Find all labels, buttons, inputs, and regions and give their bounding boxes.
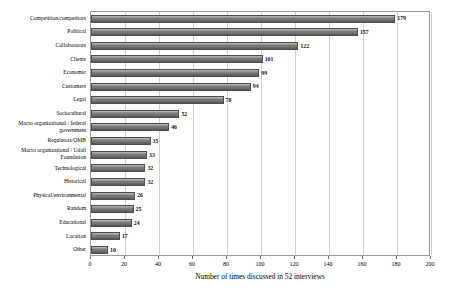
bar[interactable]: [91, 123, 169, 131]
x-tick-label: 0: [78, 260, 102, 268]
bar[interactable]: [91, 151, 147, 159]
bar-row: 26: [91, 189, 429, 203]
bar-row: 33: [91, 148, 429, 162]
x-tick-mark: [362, 256, 363, 259]
x-tick-label: 160: [350, 260, 374, 268]
bar[interactable]: [91, 69, 259, 77]
category-axis-labels: Competition/competitorsPoliticalCollabor…: [0, 11, 88, 256]
x-tick-label: 120: [282, 260, 306, 268]
x-tick-label: 180: [384, 260, 408, 268]
category-label: Competition/competitors: [0, 15, 86, 21]
bar-value-label: 157: [360, 28, 369, 36]
bar-row: 32: [91, 162, 429, 176]
bar-value-label: 33: [149, 151, 155, 159]
bar[interactable]: [91, 15, 395, 23]
bar[interactable]: [91, 232, 120, 240]
bar-value-label: 25: [136, 205, 142, 213]
bar-row: 52: [91, 107, 429, 121]
category-label: Economic: [0, 69, 86, 75]
x-tick-label: 100: [248, 260, 272, 268]
bar-value-label: 94: [253, 82, 259, 90]
x-axis: 020406080100120140160180200: [90, 256, 430, 272]
x-tick-label: 60: [180, 260, 204, 268]
x-tick-mark: [430, 256, 431, 259]
bar-chart: Competition/competitorsPoliticalCollabor…: [0, 0, 456, 296]
bar-value-label: 46: [171, 123, 177, 131]
bar-row: 32: [91, 175, 429, 189]
category-label: Collaborators: [0, 42, 86, 48]
x-tick-mark: [158, 256, 159, 259]
category-label: Clients: [0, 56, 86, 62]
bar[interactable]: [91, 164, 145, 172]
x-tick-mark: [328, 256, 329, 259]
bar-value-label: 35: [153, 137, 159, 145]
bar-row: 157: [91, 26, 429, 40]
bar-row: 35: [91, 135, 429, 149]
bar-value-label: 179: [397, 14, 406, 22]
bar-value-label: 78: [226, 96, 232, 104]
bar-row: 25: [91, 203, 429, 217]
bar-value-label: 32: [147, 164, 153, 172]
x-tick-label: 40: [146, 260, 170, 268]
bars-layer: 1791571221019994785246353332322625241710: [91, 12, 429, 255]
bar-row: 46: [91, 121, 429, 135]
gridline: [431, 12, 432, 255]
x-tick-label: 140: [316, 260, 340, 268]
category-label: Sociocultural: [0, 110, 86, 116]
category-label: Macro organizational / federal governmen…: [0, 120, 86, 133]
x-tick-mark: [260, 256, 261, 259]
bar[interactable]: [91, 55, 263, 63]
category-label: Location: [0, 233, 86, 239]
category-label: Macro organizational / Udall Foundation: [0, 147, 86, 160]
bar-row: 101: [91, 53, 429, 67]
bar[interactable]: [91, 205, 134, 213]
bar-value-label: 17: [122, 232, 128, 240]
bar-row: 99: [91, 66, 429, 80]
bar-value-label: 26: [137, 191, 143, 199]
category-label: Technological: [0, 165, 86, 171]
bar[interactable]: [91, 246, 108, 254]
bar-value-label: 99: [261, 69, 267, 77]
bar-value-label: 122: [300, 42, 309, 50]
bar-row: 94: [91, 80, 429, 94]
category-label: Political: [0, 28, 86, 34]
bar-row: 24: [91, 216, 429, 230]
x-tick-mark: [294, 256, 295, 259]
bar[interactable]: [91, 28, 358, 36]
bar-row: 78: [91, 94, 429, 108]
bar-row: 10: [91, 243, 429, 257]
bar-value-label: 24: [134, 219, 140, 227]
category-label: Regulators/OMB: [0, 137, 86, 143]
x-tick-mark: [396, 256, 397, 259]
category-label: Customers: [0, 83, 86, 89]
x-tick-mark: [226, 256, 227, 259]
bar[interactable]: [91, 110, 179, 118]
bar[interactable]: [91, 137, 151, 145]
category-label: Educational: [0, 219, 86, 225]
category-label: Random: [0, 205, 86, 211]
bar-row: 122: [91, 39, 429, 53]
bar-value-label: 10: [110, 246, 116, 254]
plot-area: 1791571221019994785246353332322625241710: [90, 11, 430, 256]
category-label: Historical: [0, 178, 86, 184]
x-tick-label: 20: [112, 260, 136, 268]
x-tick-mark: [90, 256, 91, 259]
x-tick-mark: [124, 256, 125, 259]
bar-value-label: 32: [147, 178, 153, 186]
bar[interactable]: [91, 42, 298, 50]
bar[interactable]: [91, 96, 224, 104]
bar-value-label: 101: [265, 55, 274, 63]
x-tick-mark: [192, 256, 193, 259]
bar-value-label: 52: [181, 110, 187, 118]
bar-row: 17: [91, 230, 429, 244]
category-label: Physical/environmental: [0, 192, 86, 198]
bar-row: 179: [91, 12, 429, 26]
x-axis-title: Number of times discussed in 52 intervie…: [90, 272, 430, 282]
bar[interactable]: [91, 178, 145, 186]
bar[interactable]: [91, 83, 251, 91]
bar[interactable]: [91, 219, 132, 227]
category-label: Other: [0, 246, 86, 252]
x-tick-label: 200: [418, 260, 442, 268]
category-label: Legal: [0, 96, 86, 102]
bar[interactable]: [91, 192, 135, 200]
